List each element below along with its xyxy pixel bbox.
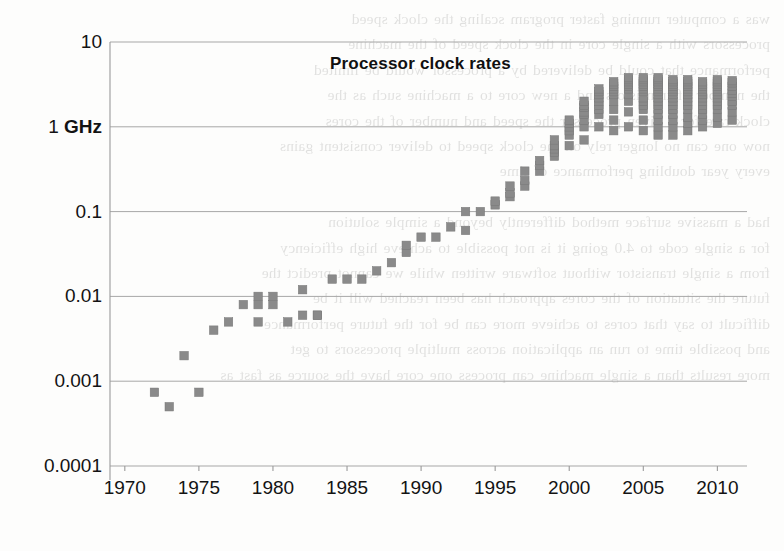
x-tick-marks-group — [125, 466, 718, 471]
data-point-marker — [180, 351, 189, 360]
data-point-marker — [521, 167, 530, 176]
data-point-marker — [402, 241, 411, 250]
y-tick-label: 0.1 — [0, 201, 102, 223]
data-point-marker — [550, 136, 559, 145]
data-point-marker — [491, 197, 500, 206]
data-point-marker — [669, 131, 678, 140]
data-point-marker — [580, 136, 589, 145]
scatter-plot-canvas — [0, 0, 784, 551]
data-point-marker — [713, 75, 722, 84]
x-tick-label: 1995 — [474, 477, 516, 499]
data-point-marker — [535, 156, 544, 165]
data-points-group — [150, 73, 736, 411]
data-point-marker — [254, 292, 262, 301]
data-point-marker — [654, 73, 663, 82]
data-point-marker — [669, 75, 678, 84]
x-tick-label: 1980 — [252, 477, 294, 499]
data-point-marker — [150, 388, 159, 397]
data-point-marker — [298, 285, 307, 294]
data-point-marker — [239, 300, 248, 309]
data-point-marker — [683, 113, 692, 122]
data-point-marker — [624, 123, 633, 132]
y-tick-label: 10 — [0, 31, 102, 53]
processor-clock-rates-figure: Processor clock rates 101 GHz0.10.010.00… — [0, 0, 784, 551]
data-point-marker — [654, 131, 663, 140]
data-point-marker — [209, 326, 218, 335]
data-point-marker — [624, 73, 633, 82]
data-point-marker — [639, 73, 648, 82]
data-point-marker — [595, 85, 604, 94]
y-tick-label: 0.01 — [0, 285, 102, 307]
data-point-marker — [165, 402, 174, 411]
x-tick-label: 2005 — [622, 477, 664, 499]
y-tick-label: 0.001 — [0, 370, 102, 392]
data-point-marker — [269, 292, 278, 301]
data-point-marker — [565, 141, 574, 150]
data-point-marker — [446, 223, 455, 232]
x-tick-label: 2000 — [548, 477, 590, 499]
data-point-marker — [298, 311, 307, 320]
data-point-marker — [461, 226, 470, 235]
x-tick-label: 1990 — [400, 477, 442, 499]
data-point-marker — [254, 300, 262, 309]
x-tick-label: 1970 — [104, 477, 146, 499]
data-point-marker — [387, 258, 396, 267]
data-point-marker — [195, 388, 204, 397]
data-point-marker — [224, 318, 233, 327]
chart-title: Processor clock rates — [330, 54, 511, 74]
data-point-marker — [639, 116, 648, 125]
data-point-marker — [624, 108, 633, 117]
data-point-marker — [269, 300, 278, 309]
data-point-marker — [432, 233, 441, 242]
data-point-marker — [328, 275, 337, 284]
y-tick-label: 0.0001 — [0, 455, 102, 477]
data-point-marker — [358, 275, 367, 284]
y-tick-label: 1 GHz — [0, 116, 102, 138]
data-point-marker — [254, 318, 262, 327]
data-point-marker — [506, 182, 515, 191]
data-point-marker — [609, 77, 618, 86]
data-point-marker — [372, 267, 381, 276]
data-point-marker — [461, 207, 470, 216]
data-point-marker — [521, 176, 530, 185]
data-point-marker — [728, 116, 737, 125]
data-point-marker — [565, 116, 574, 125]
data-point-marker — [313, 311, 322, 320]
data-point-marker — [683, 75, 692, 84]
data-point-marker — [609, 105, 618, 114]
data-point-marker — [580, 97, 589, 106]
data-point-marker — [595, 123, 604, 132]
data-point-marker — [476, 207, 485, 216]
data-point-marker — [698, 77, 707, 86]
data-point-marker — [417, 233, 426, 242]
x-tick-label: 1975 — [178, 477, 220, 499]
data-point-marker — [639, 126, 648, 135]
data-point-marker — [713, 113, 722, 122]
gridlines-group — [110, 42, 747, 466]
data-point-marker — [343, 275, 352, 284]
data-point-marker — [284, 318, 293, 327]
x-tick-label: 1985 — [326, 477, 368, 499]
x-tick-label: 2010 — [696, 477, 738, 499]
data-point-marker — [728, 76, 737, 85]
data-point-marker — [609, 116, 618, 125]
data-point-marker — [609, 126, 618, 135]
